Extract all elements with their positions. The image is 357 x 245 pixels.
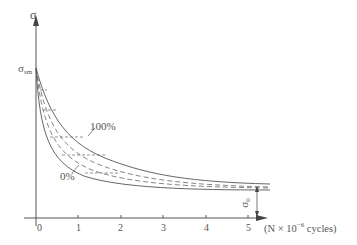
x-tick-2: 2 (118, 222, 123, 233)
y-axis-label: σ (30, 8, 36, 23)
x-tick-5: 5 (246, 222, 251, 233)
sigma-sm-label: σsm (18, 62, 32, 76)
fatigue-diagram (0, 0, 357, 245)
label-100pct: 100% (90, 120, 116, 132)
x-axis-label: (N × 10−6 cycles) (264, 221, 337, 234)
curve-100pct (36, 68, 270, 184)
label-0pct: 0% (60, 170, 75, 182)
x-tick-0: 0 (37, 222, 42, 233)
x-tick-3: 3 (161, 222, 166, 233)
x-tick-1: 1 (76, 222, 81, 233)
sigma-0-label: σ0 (238, 198, 252, 207)
x-tick-4: 4 (204, 222, 209, 233)
